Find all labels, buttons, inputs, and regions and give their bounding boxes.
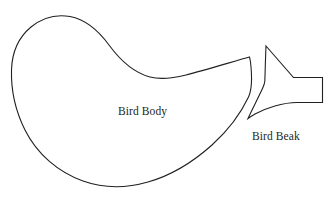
bird-beak-label: Bird Beak	[252, 130, 300, 142]
bird-body-outline	[11, 16, 251, 187]
pattern-canvas: bird appliqué pattern pieces Bird Body B…	[0, 0, 331, 208]
bird-beak-outline	[248, 46, 323, 119]
bird-pattern-illustration	[0, 0, 331, 208]
bird-body-label: Bird Body	[118, 105, 167, 117]
